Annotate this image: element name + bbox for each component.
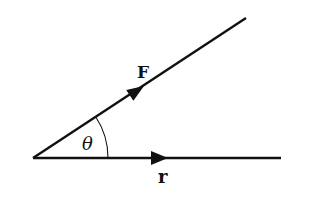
angle-theta-label: θ [82,135,93,153]
vector-f-label: F [137,64,149,81]
angle-arc [96,117,108,158]
vector-r-label: r [158,168,167,186]
vector-r-arrowhead-icon [151,151,168,165]
diagram-canvas: F r θ [0,0,309,199]
vector-diagram [0,0,309,199]
